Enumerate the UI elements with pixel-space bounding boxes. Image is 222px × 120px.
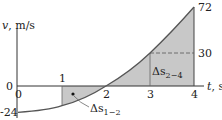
tick-4-label: 4 (191, 89, 198, 100)
v-neg24-label: -24 (0, 107, 18, 118)
origin-x-label: 0 (15, 89, 22, 100)
area-1-2-label: Δs1−2 (90, 103, 120, 117)
v-72-label: 72 (198, 2, 212, 13)
area-1-2-marker-dot (71, 92, 74, 95)
velocity-time-plot (0, 0, 222, 120)
origin-y-label: 0 (6, 81, 13, 92)
v-30-label: 30 (198, 48, 212, 59)
tick-2-label: 2 (103, 89, 110, 100)
x-axis-label: t, s (207, 81, 222, 92)
area-2-4-label: Δs2−4 (152, 66, 182, 80)
y-axis-label: v, m/s (2, 20, 35, 31)
tick-3-label: 3 (147, 89, 154, 100)
tick-1-label: 1 (59, 73, 66, 84)
